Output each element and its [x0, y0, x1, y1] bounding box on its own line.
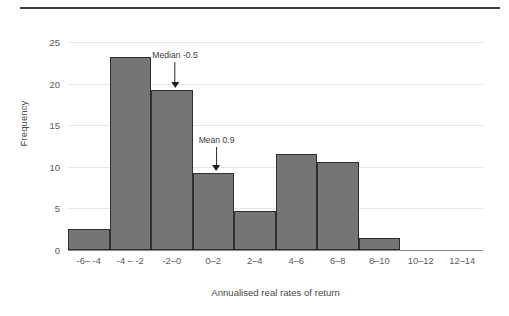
y-tick-label: 0 [55, 245, 60, 256]
y-tick-label: 20 [49, 78, 60, 89]
x-axis-title: Annualised real rates of return [68, 287, 483, 298]
x-tick-label: 0–2 [205, 256, 221, 266]
plot-area: 0510152025 -6– -4-4 – -2-2–00–22–44–66–8… [68, 42, 483, 250]
histogram-figure: Frequency 0510152025 -6– -4-4 – -2-2–00–… [0, 0, 509, 316]
x-axis-baseline [68, 250, 483, 251]
x-tick-label: 10–12 [408, 256, 434, 266]
histogram-bar [110, 57, 152, 250]
x-tick-label: -4 – -2 [117, 256, 144, 266]
y-tick-label: 5 [55, 203, 60, 214]
x-tick-label: -2–0 [162, 256, 181, 266]
histogram-bar [359, 238, 401, 250]
histogram-bar [193, 173, 235, 250]
bars-group [68, 42, 483, 250]
x-tick-label: 6–8 [330, 256, 346, 266]
histogram-bar [317, 162, 359, 250]
histogram-bar [276, 154, 318, 250]
histogram-bar [68, 229, 110, 250]
x-tick-label: -6– -4 [77, 256, 101, 266]
x-tick-label: 12–14 [449, 256, 475, 266]
x-tick-label: 4–6 [288, 256, 304, 266]
x-tick-label: 2–4 [247, 256, 263, 266]
y-axis-title: Frequency [18, 84, 29, 164]
histogram-bar [151, 90, 193, 250]
histogram-bar [234, 211, 276, 250]
y-tick-label: 25 [49, 37, 60, 48]
x-tick-label: 8–10 [369, 256, 390, 266]
header-rule [20, 7, 500, 9]
y-tick-label: 10 [49, 161, 60, 172]
y-tick-label: 15 [49, 120, 60, 131]
